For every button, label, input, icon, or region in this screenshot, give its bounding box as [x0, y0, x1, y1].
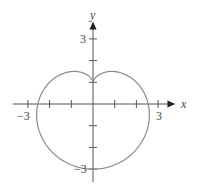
x-axis-label: x	[180, 97, 187, 111]
x-tick-label-neg3: −3	[17, 109, 30, 123]
x-tick-label-3: 3	[156, 109, 162, 123]
x-axis-arrow-icon	[167, 101, 175, 108]
y-tick-label-neg3: −3	[74, 162, 87, 176]
axes	[13, 22, 176, 183]
y-axis-label: y	[89, 8, 96, 22]
y-axis-arrow-icon	[90, 22, 97, 30]
y-tick-label-3: 3	[80, 32, 86, 46]
deltoid-plot: x y −3 3 3 −3	[0, 0, 200, 193]
